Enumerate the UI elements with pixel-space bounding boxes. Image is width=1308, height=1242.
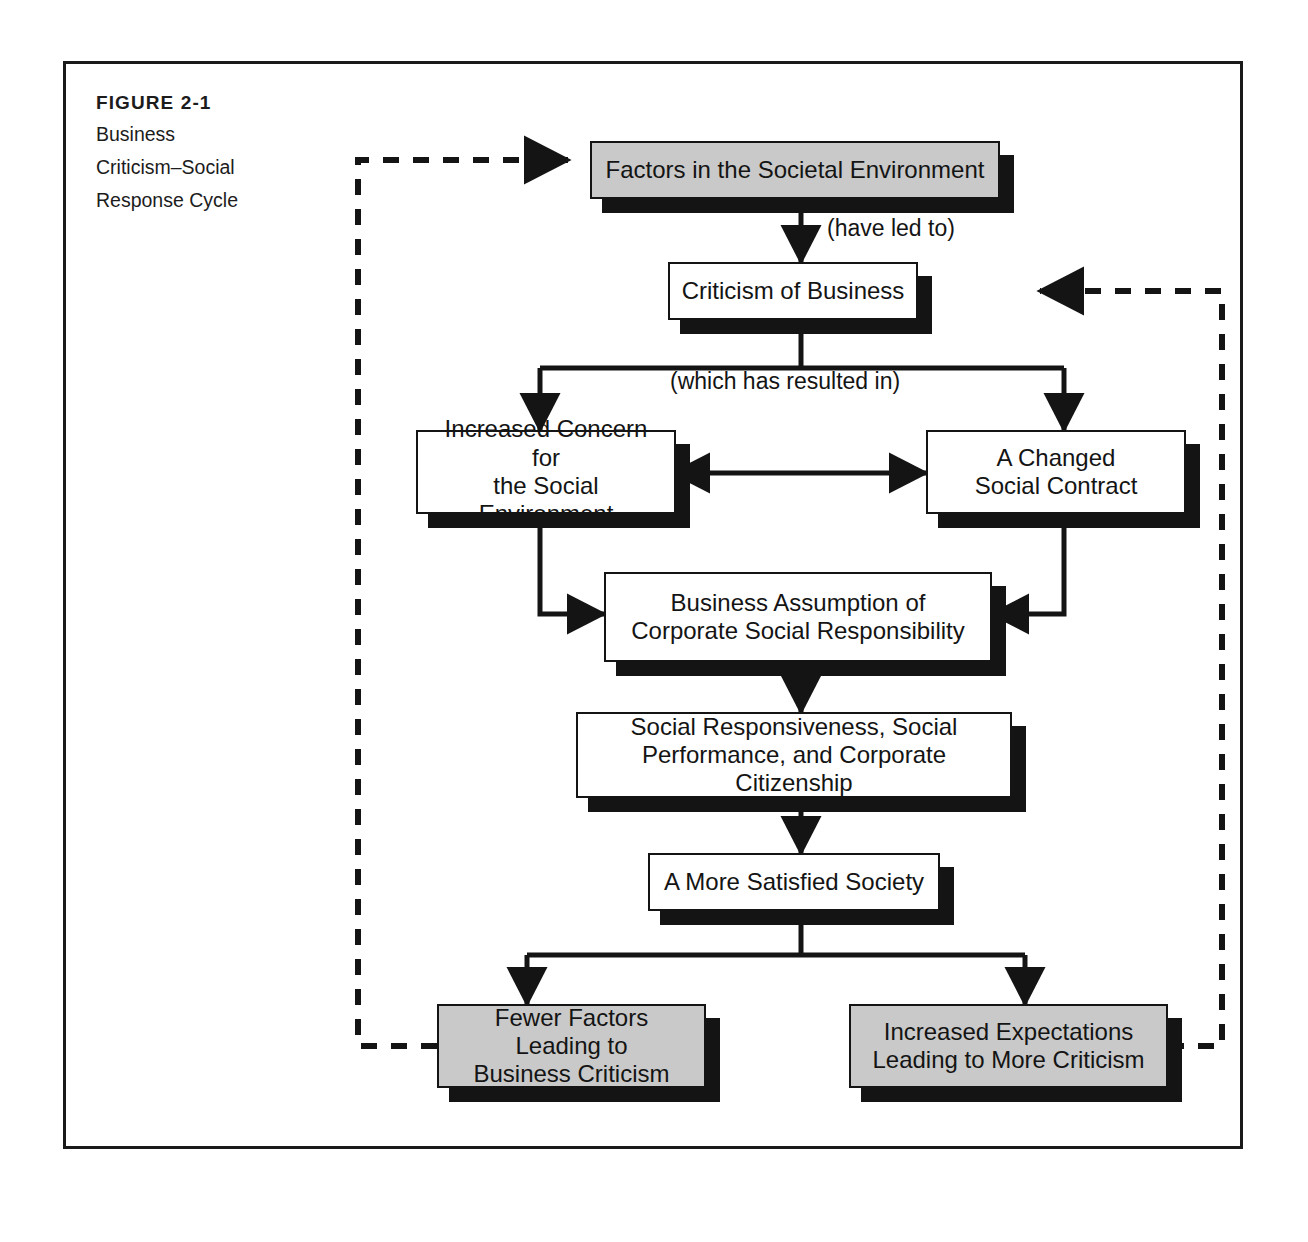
node-increased-concern-social-environment[interactable]: Increased Concern for the Social Environ…: [416, 430, 676, 514]
node-a-more-satisfied-society[interactable]: A More Satisfied Society: [648, 853, 940, 911]
shadow-fewer-factors-bottom: [449, 1088, 720, 1102]
node-business-assumption-csr[interactable]: Business Assumption of Corporate Social …: [604, 572, 992, 662]
shadow-factors-bottom: [602, 199, 1014, 213]
node-increased-expectations-line-2: Leading to More Criticism: [872, 1046, 1144, 1074]
shadow-responsiveness-bottom: [588, 798, 1026, 812]
node-contract-line-1: A Changed: [997, 444, 1116, 472]
figure-title-line-3: Response Cycle: [96, 184, 326, 217]
figure-number: FIGURE 2-1: [96, 88, 326, 118]
node-concern-line-1: Increased Concern for: [428, 415, 664, 472]
node-assumption-line-1: Business Assumption of: [671, 589, 926, 617]
figure-title-line-2: Criticism–Social: [96, 151, 326, 184]
node-a-changed-social-contract[interactable]: A Changed Social Contract: [926, 430, 1186, 514]
node-assumption-line-2: Corporate Social Responsibility: [631, 617, 965, 645]
node-criticism-of-business[interactable]: Criticism of Business: [668, 262, 918, 320]
shadow-assumption-bottom: [616, 662, 1006, 676]
node-fewer-factors-leading-to-business-criticism[interactable]: Fewer Factors Leading to Business Critic…: [437, 1004, 706, 1088]
node-factors-label: Factors in the Societal Environment: [606, 156, 985, 184]
shadow-society-bottom: [660, 911, 954, 925]
figure-caption: FIGURE 2-1 Business Criticism–Social Res…: [96, 88, 326, 217]
node-responsiveness-line-1: Social Responsiveness, Social: [631, 713, 958, 741]
node-increased-expectations-line-1: Increased Expectations: [884, 1018, 1133, 1046]
node-increased-expectations-leading-to-more-criticism[interactable]: Increased Expectations Leading to More C…: [849, 1004, 1168, 1088]
shadow-contract-bottom: [938, 514, 1200, 528]
node-criticism-label: Criticism of Business: [682, 277, 905, 305]
node-contract-line-2: Social Contract: [975, 472, 1138, 500]
node-responsiveness-line-2: Performance, and Corporate Citizenship: [588, 741, 1000, 798]
figure-title-line-1: Business: [96, 118, 326, 151]
shadow-increased-expectations-bottom: [861, 1088, 1182, 1102]
node-factors-in-societal-environment[interactable]: Factors in the Societal Environment: [590, 141, 1000, 199]
node-fewer-factors-line-2: Business Criticism: [473, 1060, 669, 1088]
node-society-label: A More Satisfied Society: [664, 868, 924, 896]
edge-label-which-has-resulted-in: (which has resulted in): [670, 368, 900, 395]
node-concern-line-2: the Social Environment: [428, 472, 664, 529]
shadow-criticism-bottom: [680, 320, 932, 334]
node-social-responsiveness-performance-citizenship[interactable]: Social Responsiveness, Social Performanc…: [576, 712, 1012, 798]
edge-label-have-led-to: (have led to): [827, 215, 955, 242]
node-fewer-factors-line-1: Fewer Factors Leading to: [449, 1004, 694, 1061]
figure-page: FIGURE 2-1 Business Criticism–Social Res…: [0, 0, 1308, 1242]
